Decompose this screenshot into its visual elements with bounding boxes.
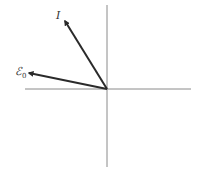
phasor-diagram: [0, 0, 203, 169]
emf-label-subscript: 0: [22, 72, 26, 80]
current-phasor-arrow: [65, 21, 107, 89]
current-label: I: [56, 10, 60, 21]
emf-phasor-arrow: [29, 73, 107, 89]
emf-label: ℰ0: [15, 66, 26, 80]
emf-label-text: ℰ: [15, 65, 22, 78]
current-label-text: I: [56, 9, 60, 22]
